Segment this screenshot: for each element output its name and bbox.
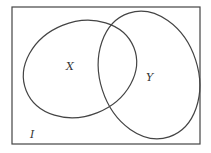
set-x-label: X — [65, 60, 75, 73]
set-x-ellipse — [9, 4, 152, 135]
set-y-label: Y — [146, 71, 155, 84]
venn-diagram: X Y I — [0, 0, 211, 153]
universe-rectangle — [12, 7, 200, 144]
universe-label: I — [29, 128, 35, 141]
